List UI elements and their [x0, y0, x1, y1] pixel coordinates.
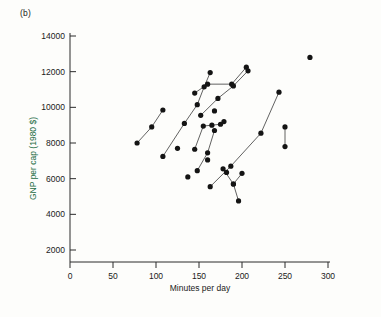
- x-tick-label: 0: [68, 271, 73, 281]
- data-point: [258, 131, 263, 136]
- data-point: [192, 147, 197, 152]
- data-point: [221, 119, 226, 124]
- y-tick-label: 14000: [41, 31, 65, 41]
- y-tick-label: 2000: [46, 245, 65, 255]
- data-point: [276, 90, 281, 95]
- data-point: [282, 124, 287, 129]
- series-data-points: [134, 55, 312, 204]
- x-axis: 050100150200250300 Minutes per day: [68, 262, 336, 293]
- data-point: [160, 107, 165, 112]
- data-point: [185, 174, 190, 179]
- x-tick-label: 50: [108, 271, 118, 281]
- data-point: [205, 157, 210, 162]
- data-point: [215, 96, 220, 101]
- y-tick-label: 10000: [41, 102, 65, 112]
- data-point: [307, 55, 312, 60]
- data-point: [208, 184, 213, 189]
- y-axis: 2000400060008000100001200014000 GNP per …: [28, 31, 76, 262]
- x-axis-ticks: [70, 262, 328, 268]
- data-point: [134, 140, 139, 145]
- y-tick-label: 6000: [46, 174, 65, 184]
- y-tick-label: 8000: [46, 138, 65, 148]
- x-axis-title: Minutes per day: [170, 283, 231, 293]
- data-point: [282, 144, 287, 149]
- data-point: [149, 124, 154, 129]
- data-point: [245, 68, 250, 73]
- x-tick-label: 250: [278, 271, 292, 281]
- x-tick-label: 150: [192, 271, 206, 281]
- trajectory-line: [197, 131, 214, 171]
- x-axis-tick-labels: 050100150200250300: [68, 271, 336, 281]
- data-point: [195, 168, 200, 173]
- data-point: [212, 128, 217, 133]
- data-point: [212, 108, 217, 113]
- x-tick-label: 100: [149, 271, 163, 281]
- data-point: [208, 70, 213, 75]
- data-point: [231, 181, 236, 186]
- y-axis-tick-labels: 2000400060008000100001200014000: [41, 31, 65, 255]
- y-axis-ticks: [70, 36, 76, 250]
- data-point: [198, 113, 203, 118]
- data-point: [182, 121, 187, 126]
- data-point: [205, 150, 210, 155]
- data-point: [192, 90, 197, 95]
- trajectory-line: [195, 124, 221, 149]
- trajectory-line: [210, 92, 279, 187]
- x-tick-label: 300: [321, 271, 335, 281]
- y-tick-label: 4000: [46, 209, 65, 219]
- data-point: [160, 154, 165, 159]
- data-point: [205, 82, 210, 87]
- y-tick-label: 12000: [41, 67, 65, 77]
- data-point: [236, 198, 241, 203]
- y-axis-title: GNP per cap (1980 $): [28, 117, 38, 200]
- figure-panel: (b) 2000400060008000100001200014000 GNP …: [0, 0, 381, 317]
- data-point: [195, 102, 200, 107]
- scatter-plot-canvas: 2000400060008000100001200014000 GNP per …: [0, 0, 381, 317]
- data-point: [239, 171, 244, 176]
- data-point: [209, 123, 214, 128]
- x-tick-label: 200: [235, 271, 249, 281]
- data-point: [201, 123, 206, 128]
- data-point: [228, 164, 233, 169]
- data-point: [231, 83, 236, 88]
- data-point: [224, 170, 229, 175]
- data-point: [175, 146, 180, 151]
